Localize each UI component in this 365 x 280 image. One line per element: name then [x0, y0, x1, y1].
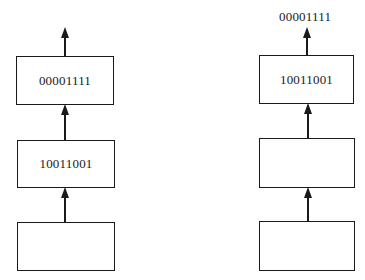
left-arrow-2-to-1-line: [64, 113, 66, 140]
left-register-top-value: 00001111: [39, 73, 91, 89]
right-output-arrow-line: [306, 36, 308, 55]
left-register-bottom: [17, 222, 115, 271]
right-register-middle: [259, 138, 355, 188]
right-register-top-value: 10011001: [280, 72, 333, 88]
right-arrow-2-to-1-line: [307, 112, 309, 139]
left-arrow-3-to-2-line: [64, 196, 66, 223]
right-output-value: 00001111: [279, 9, 331, 25]
left-register-middle: 10011001: [17, 140, 115, 188]
right-register-top: 10011001: [259, 55, 354, 104]
figure-caption-clipped: [0, 272, 365, 280]
left-register-top: 00001111: [16, 56, 114, 105]
left-register-middle-value: 10011001: [39, 156, 92, 172]
right-arrow-3-to-2-line: [307, 196, 309, 222]
left-output-arrow-line: [64, 36, 66, 56]
right-register-bottom: [259, 221, 355, 271]
